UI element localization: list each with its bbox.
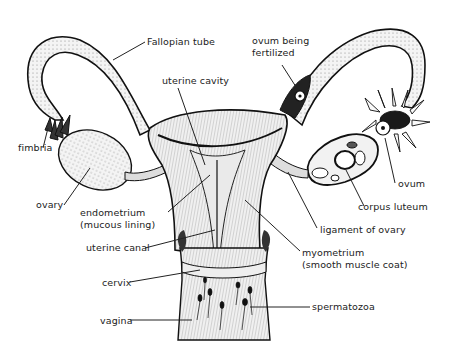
label-fimbria: fimbria	[18, 142, 52, 154]
label-spermatozoa: spermatozoa	[312, 301, 375, 313]
label-ovum: ovum	[398, 178, 425, 190]
label-corpus-luteum: corpus luteum	[358, 201, 428, 213]
label-myometrium: myometrium (smooth muscle coat)	[302, 247, 408, 271]
label-endometrium: endometrium (mucous lining)	[80, 207, 155, 231]
label-endometrium-line2: (mucous lining)	[80, 219, 155, 231]
label-uterine-cavity: uterine cavity	[162, 75, 229, 87]
label-ovum-being-fertilized-line1: ovum being	[252, 35, 309, 47]
left-fallopian-tube	[28, 37, 150, 135]
label-ligament-of-ovary: ligament of ovary	[320, 224, 406, 236]
label-ovary: ovary	[36, 199, 63, 211]
label-fallopian-tube: Fallopian tube	[147, 36, 215, 48]
label-uterine-canal: uterine canal	[86, 242, 150, 254]
label-vagina: vagina	[100, 315, 133, 327]
label-myometrium-line2: (smooth muscle coat)	[302, 259, 408, 271]
label-endometrium-line1: endometrium	[80, 207, 155, 219]
label-myometrium-line1: myometrium	[302, 247, 408, 259]
right-ovary	[308, 134, 378, 185]
label-ovum-being-fertilized-line2: fertilized	[252, 47, 309, 59]
label-ovum-being-fertilized: ovum being fertilized	[252, 35, 309, 59]
corpus-luteum	[335, 151, 355, 169]
reproductive-anatomy-diagram	[0, 0, 467, 360]
label-cervix: cervix	[102, 277, 131, 289]
